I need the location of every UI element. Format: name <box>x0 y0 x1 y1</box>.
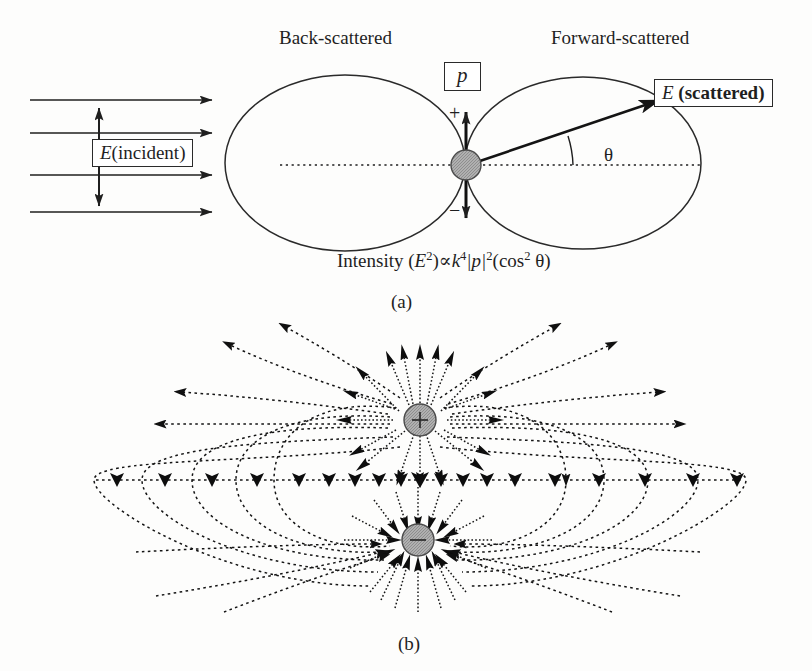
panel-b-caption: (b) <box>398 634 420 653</box>
field-line-r3 <box>452 427 648 560</box>
scattered-field-arrow <box>468 100 660 165</box>
field-line-out-ul2 <box>180 392 388 414</box>
formula-cos-open: (cos <box>493 250 525 271</box>
field-line-out-ll3 <box>136 544 376 552</box>
field-line-out-ur2 <box>452 392 660 414</box>
dipole-moment-label-box: p <box>444 62 481 91</box>
incident-field-symbol: E <box>100 142 112 163</box>
back-scattered-lobe <box>225 75 465 251</box>
back-scattered-label: Back-scattered <box>279 28 392 47</box>
field-line-out-ul1 <box>228 344 392 404</box>
formula-k: k <box>452 250 460 271</box>
incident-field-label-box: E(incident) <box>92 139 193 167</box>
field-line-out-lr1 <box>452 556 612 612</box>
panel-a-caption: (a) <box>391 292 412 311</box>
dipole-field-lines-group <box>94 326 746 612</box>
field-line-out-ll1 <box>224 556 384 612</box>
theta-arc <box>568 136 573 165</box>
intensity-formula: Intensity (E2)∝k4|p|2(cos2 θ) <box>337 251 551 270</box>
theta-angle-label: θ <box>604 145 613 164</box>
formula-prop: )∝ <box>432 250 451 271</box>
field-line-out-ur4 <box>440 326 556 398</box>
field-line-out-ul4 <box>284 326 400 398</box>
formula-lead: Intensity ( <box>337 250 415 271</box>
formula-e: E <box>415 250 427 271</box>
formula-p-abs: |p| <box>466 250 486 271</box>
field-line-r5 <box>440 447 746 586</box>
dipole-minus-sign: − <box>449 200 460 220</box>
figure-root: Back-scattered Forward-scattered E(incid… <box>0 0 812 671</box>
scattered-field-label-box: E (scattered) <box>654 79 773 107</box>
formula-theta-close: θ) <box>530 250 550 271</box>
field-line-l2 <box>236 416 390 552</box>
field-line-l3 <box>192 427 388 560</box>
forward-scattered-label: Forward-scattered <box>551 28 689 47</box>
scattered-field-symbol: E <box>662 82 674 103</box>
dipole-plus-sign: + <box>449 103 460 123</box>
incident-field-text: (incident) <box>112 142 186 163</box>
field-line-r2 <box>450 416 604 552</box>
dipole-particle <box>451 150 481 180</box>
field-line-out-ur1 <box>448 344 612 404</box>
scattered-field-text: (scattered) <box>674 82 765 103</box>
